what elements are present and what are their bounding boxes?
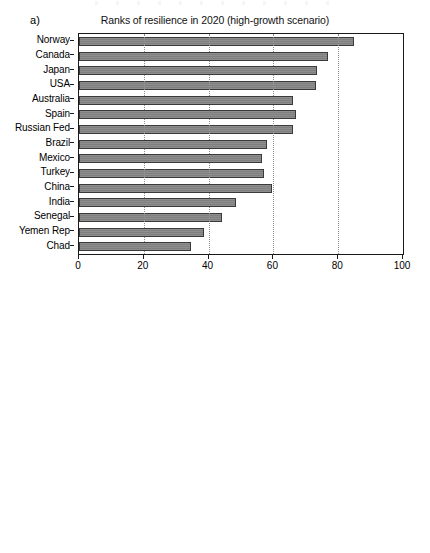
chart-panel-b: b) Ranks of resilience in 2050 (high-gro… <box>0 278 430 553</box>
x-axis-tick-mark <box>337 255 338 259</box>
bar-row <box>79 107 403 122</box>
bar-norway <box>79 37 354 46</box>
y-axis-tick-row: Australia <box>0 92 74 107</box>
bar-canada <box>79 52 328 61</box>
y-axis-tick-mark <box>70 84 74 85</box>
y-axis-tick-row: Yemen Rep <box>0 224 74 239</box>
plot-area-a <box>78 33 404 255</box>
bar-rows-a <box>79 34 403 254</box>
y-axis-tick-row: Mexico <box>0 150 74 165</box>
y-axis-tick-row: Spain <box>0 106 74 121</box>
y-axis-labels-a: NorwayCanadaJapanUSAAustraliaSpainRussia… <box>0 33 74 255</box>
y-axis-tick-mark <box>70 216 74 217</box>
y-axis-tick-row: China <box>0 180 74 195</box>
bar-row <box>79 34 403 49</box>
y-axis-tick-mark <box>70 98 74 99</box>
y-axis-label: Mexico <box>39 153 74 163</box>
y-axis-label: Russian Fed <box>15 123 74 133</box>
y-axis-tick-row: Japan <box>0 62 74 77</box>
gridline-40 <box>209 34 210 254</box>
bar-row <box>79 210 403 225</box>
y-axis-label: Senegal <box>34 211 74 221</box>
y-axis-tick-mark <box>70 54 74 55</box>
bar-row <box>79 181 403 196</box>
bar-chad <box>79 242 191 251</box>
bar-turkey <box>79 169 264 178</box>
bar-row <box>79 195 403 210</box>
x-axis-a: 020406080100 <box>78 255 404 273</box>
bar-russian-fed <box>79 125 293 134</box>
bar-row <box>79 137 403 152</box>
x-axis-tick-label: 60 <box>267 260 278 271</box>
bar-mexico <box>79 154 262 163</box>
x-axis-tick-mark <box>402 255 403 259</box>
gridline-60 <box>273 34 274 254</box>
y-axis-tick-mark <box>70 186 74 187</box>
x-axis-tick-label: 40 <box>202 260 213 271</box>
y-axis-tick-row: Norway <box>0 33 74 48</box>
bar-brazil <box>79 140 267 149</box>
bar-australia <box>79 96 293 105</box>
bar-china <box>79 184 272 193</box>
bar-senegal <box>79 213 222 222</box>
gridline-80 <box>338 34 339 254</box>
y-axis-tick-row: Russian Fed <box>0 121 74 136</box>
bar-row <box>79 239 403 254</box>
y-axis-tick-row: Turkey <box>0 165 74 180</box>
x-axis-tick-label: 100 <box>394 260 411 271</box>
chart-panel-a: a) Ranks of resilience in 2020 (high-gro… <box>0 0 430 278</box>
y-axis-tick-row: Brazil <box>0 136 74 151</box>
y-axis-tick-mark <box>70 142 74 143</box>
bar-row <box>79 225 403 240</box>
y-axis-tick-row: Senegal <box>0 209 74 224</box>
bar-india <box>79 198 236 207</box>
scan-artifact <box>95 1 340 5</box>
bar-japan <box>79 66 317 75</box>
y-axis-tick-mark <box>70 113 74 114</box>
y-axis-tick-row: USA <box>0 77 74 92</box>
y-axis-label: Norway <box>37 35 74 45</box>
x-axis-tick-label: 0 <box>75 260 81 271</box>
y-axis-tick-mark <box>70 157 74 158</box>
x-axis-tick-label: 80 <box>332 260 343 271</box>
x-axis-tick-mark <box>78 255 79 259</box>
x-axis-tick-mark <box>208 255 209 259</box>
y-axis-tick-mark <box>70 201 74 202</box>
chart-title-a: Ranks of resilience in 2020 (high-growth… <box>0 14 430 26</box>
bar-yemen-rep <box>79 228 204 237</box>
y-axis-tick-mark <box>70 40 74 41</box>
y-axis-label: Australia <box>32 94 74 104</box>
x-axis-tick-mark <box>272 255 273 259</box>
bar-usa <box>79 81 316 90</box>
y-axis-tick-mark <box>70 245 74 246</box>
y-axis-label: Yemen Rep <box>19 226 74 236</box>
bar-row <box>79 122 403 137</box>
bar-row <box>79 166 403 181</box>
bar-row <box>79 49 403 64</box>
y-axis-tick-mark <box>70 128 74 129</box>
bar-row <box>79 63 403 78</box>
bar-spain <box>79 110 296 119</box>
y-axis-tick-mark <box>70 172 74 173</box>
y-axis-tick-row: Chad <box>0 238 74 253</box>
y-axis-label: Turkey <box>40 167 74 177</box>
bar-row <box>79 78 403 93</box>
gridline-20 <box>144 34 145 254</box>
y-axis-tick-row: India <box>0 194 74 209</box>
y-axis-label: Canada <box>36 50 74 60</box>
y-axis-tick-mark <box>70 230 74 231</box>
bar-row <box>79 93 403 108</box>
x-axis-tick-mark <box>143 255 144 259</box>
x-axis-tick-label: 20 <box>137 260 148 271</box>
y-axis-tick-row: Canada <box>0 48 74 63</box>
y-axis-tick-mark <box>70 69 74 70</box>
bar-row <box>79 151 403 166</box>
